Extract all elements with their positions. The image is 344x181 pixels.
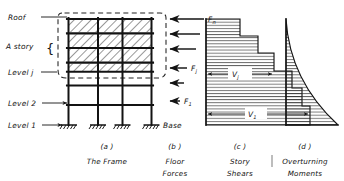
caption-text-a: The Frame bbox=[87, 157, 128, 166]
frame-panel: Roof A story { Level j Level 2 Level 1 B… bbox=[5, 13, 182, 130]
caption-key-c: (c ) bbox=[234, 142, 247, 151]
level-label-roof: Roof bbox=[8, 13, 27, 22]
caption-text-d2: Moments bbox=[288, 169, 323, 178]
caption-text-b1: Floor bbox=[166, 157, 186, 166]
base-label: Base bbox=[163, 121, 182, 130]
force-label-F1: F1 bbox=[184, 97, 192, 107]
overturning-moments-panel bbox=[285, 18, 339, 126]
story-brace: { bbox=[46, 41, 54, 56]
caption-text-b2: Forces bbox=[163, 169, 188, 178]
caption-text-c1: Story bbox=[230, 157, 251, 166]
level-label-j: Level j bbox=[8, 68, 34, 77]
level-label-2: Level 2 bbox=[8, 99, 36, 108]
figure-root: Roof A story { Level j Level 2 Level 1 B… bbox=[0, 0, 344, 181]
level-leader-lines bbox=[41, 17, 67, 125]
caption-key-a: (a ) bbox=[100, 142, 113, 151]
force-label-Fj: Fj bbox=[191, 64, 197, 75]
captions: (a ) The Frame (b ) Floor Forces (c ) St… bbox=[87, 142, 328, 178]
caption-key-b: (b ) bbox=[168, 142, 181, 151]
level-label-a-story: A story bbox=[5, 42, 34, 51]
caption-key-d: (d ) bbox=[298, 142, 311, 151]
moment-curve-area bbox=[286, 19, 338, 125]
caption-text-d1: Overturning bbox=[282, 157, 328, 166]
base-supports bbox=[60, 125, 160, 129]
caption-text-c2: Shears bbox=[227, 169, 253, 178]
level-label-1: Level 1 bbox=[8, 121, 36, 130]
